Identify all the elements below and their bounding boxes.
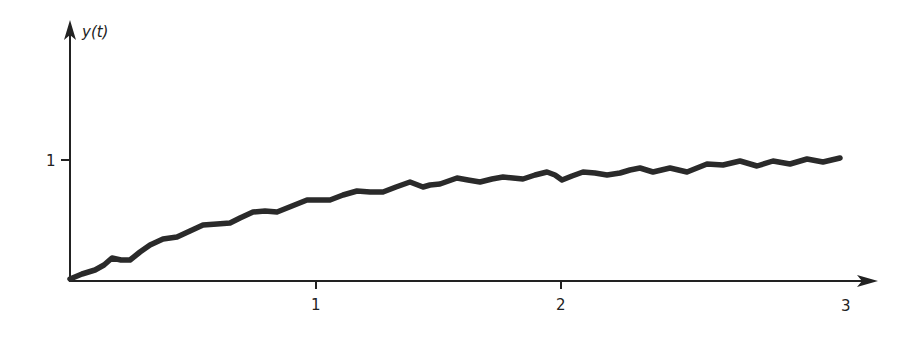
response-curve: [70, 158, 840, 279]
step-response-chart: y(t) 1 1 2 3: [0, 0, 916, 337]
x-tick-label-1: 1: [311, 296, 321, 314]
y-axis-label: y(t): [81, 23, 108, 41]
y-tick-label-1: 1: [46, 152, 56, 170]
x-tick-label-2: 2: [556, 296, 566, 314]
x-tick-label-3: 3: [841, 297, 851, 315]
